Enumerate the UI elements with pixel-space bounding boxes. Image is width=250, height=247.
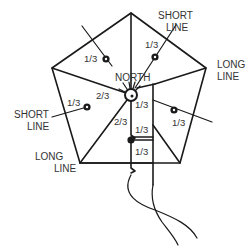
fraction-center-bottom: 1/3: [135, 146, 148, 157]
north-label: NORTH: [115, 72, 150, 83]
spar-right: [155, 68, 206, 84]
fraction-upper-right: 1/3: [145, 39, 158, 50]
short-line-top-label: SHORT LINE: [158, 10, 195, 33]
fraction-right-outer: 1/3: [172, 117, 185, 128]
fraction-left-outer: 1/3: [67, 97, 80, 108]
tail-ribbon-2: [152, 185, 178, 245]
long-line-right-label: LONG LINE: [217, 59, 248, 82]
spar-bottom-right: [153, 125, 180, 163]
fraction-center-top: 1/3: [135, 99, 148, 110]
center-box-left: [131, 99, 135, 173]
fraction-center-left: 2/3: [114, 116, 127, 127]
short-line-left: [52, 107, 87, 117]
tie-point-center-lower: [127, 136, 134, 143]
fraction-upper-left: 1/3: [84, 53, 97, 64]
short-line-left-label: SHORT LINE: [14, 109, 51, 132]
kite-diagram: NORTH SHORT LINE LONG LINE SHORT LINE LO…: [0, 0, 250, 247]
long-line-bottom-left-label: LONG LINE: [35, 151, 77, 174]
tail-ribbon-1: [128, 175, 197, 238]
fraction-left-inner: 2/3: [96, 90, 109, 101]
fraction-center-middle: 1/3: [135, 124, 148, 135]
